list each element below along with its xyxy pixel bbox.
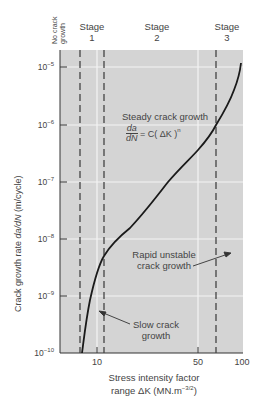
y-tick-1e-6: 10−6 xyxy=(20,119,54,130)
y-tick-1e-8: 10−8 xyxy=(20,233,54,244)
x-tick-10: 10 xyxy=(82,357,112,367)
y-tick-1e-9: 10−9 xyxy=(20,290,54,301)
rapid-unstable-growth-label: Rapid unstablecrack growth xyxy=(130,249,198,271)
y-tick-1e-10: 10−10 xyxy=(20,347,54,358)
steady-crack-growth-label: Steady crack growth xyxy=(122,111,208,122)
y-tick-1e-5: 10−5 xyxy=(20,61,54,72)
x-tick-50: 50 xyxy=(183,357,213,367)
paris-law-equation: da dN = C( ΔK )n xyxy=(126,124,181,143)
stage-3-label: Stage3 xyxy=(211,21,243,43)
y-axis-label: Crack growth rate da/dN (m/cycle) xyxy=(13,175,23,312)
stage-boundaries xyxy=(80,50,216,353)
stage-1-label: Stage1 xyxy=(76,21,108,43)
x-tick-100: 100 xyxy=(227,357,257,367)
slow-crack-growth-label: Slow crackgrowth xyxy=(131,319,181,341)
stage-2-label: Stage2 xyxy=(141,21,173,43)
y-tick-1e-7: 10−7 xyxy=(20,176,54,187)
no-crack-growth-label: No crackgrowth xyxy=(51,16,67,44)
x-axis-label: Stress intensity factor range ΔK (MN.m−3… xyxy=(100,372,208,396)
vertical-gridlines xyxy=(97,50,198,353)
crack-growth-curve xyxy=(82,63,241,353)
